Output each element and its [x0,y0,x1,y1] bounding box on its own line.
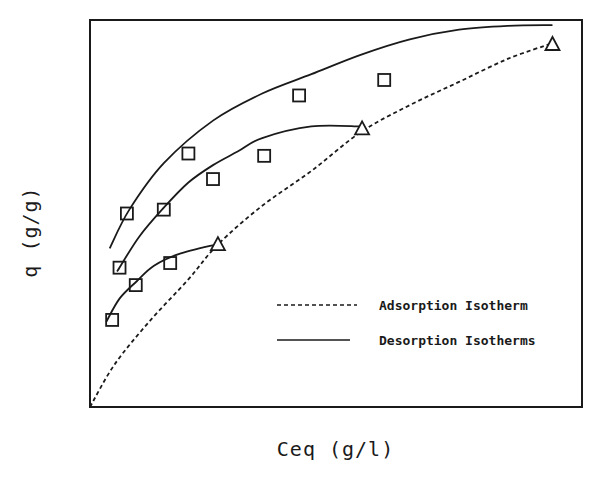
plot-frame [90,20,582,407]
y-axis-label: q (g/g) [18,186,42,277]
desorption-curve-1 [110,25,553,248]
desorption-curve-2 [117,126,361,272]
triangle-marker [355,121,369,134]
x-axis-label: Ceq (g/l) [0,437,611,461]
triangle-marker [211,237,225,250]
square-marker [182,148,194,160]
square-marker [258,150,270,162]
desorption-curve-3 [106,244,218,322]
legend: Adsorption Isotherm Desorption Isotherms [277,298,536,348]
legend-desorption-label: Desorption Isotherms [379,333,536,348]
square-marker [378,74,390,86]
adsorption-curve [90,43,552,407]
marker-layer [106,37,559,326]
isotherm-chart: Adsorption Isotherm Desorption Isotherms [0,0,611,492]
square-marker [207,173,219,185]
square-marker [293,89,305,101]
square-marker [158,204,170,216]
triangle-marker [545,37,559,50]
legend-adsorption-label: Adsorption Isotherm [379,298,528,313]
